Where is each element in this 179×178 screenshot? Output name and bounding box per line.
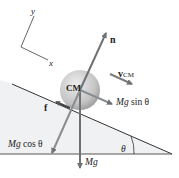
x-axis-label: x (49, 59, 53, 68)
velocity-subscript: CM (123, 71, 134, 79)
mg-cos-fn: cos θ (21, 139, 43, 149)
mg-sin-fn: sin θ (129, 97, 149, 107)
mg-cos-label: Mg cos θ (8, 140, 43, 150)
mg-cos-mg: Mg (8, 139, 21, 149)
center-of-mass-label: CM (66, 84, 81, 93)
diagram-canvas (0, 0, 179, 178)
velocity-label: vCM (118, 64, 134, 80)
y-axis-label: y (31, 7, 35, 16)
coordinate-axes (21, 16, 48, 60)
normal-force-label: n (110, 35, 116, 45)
friction-label: f (44, 103, 47, 113)
rolling-sphere-diagram: y x n vCM CM f Mg sin θ Mg cos θ Mg θ (0, 0, 179, 178)
angle-label: θ (121, 145, 126, 155)
weight-label: Mg (85, 158, 98, 168)
mg-sin-label: Mg sin θ (116, 98, 149, 108)
mg-sin-mg: Mg (116, 97, 129, 107)
